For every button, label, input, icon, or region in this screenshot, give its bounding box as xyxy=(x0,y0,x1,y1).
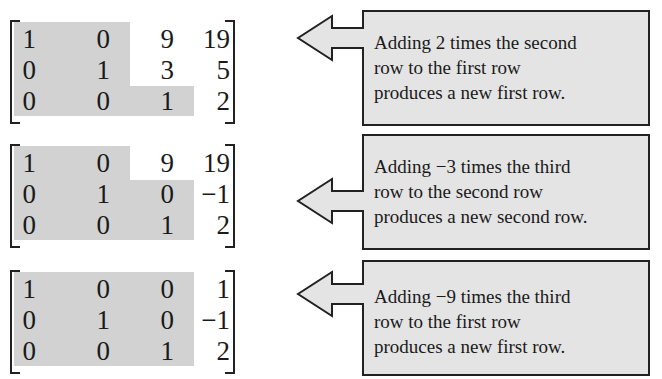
note-line: row to the first row xyxy=(374,55,636,80)
note-line: produces a new second row. xyxy=(374,204,636,229)
matrix-cell: 1 xyxy=(0,24,36,54)
matrix-cell: 2 xyxy=(190,86,230,116)
matrix-cell: 0 xyxy=(0,305,36,335)
note-line: Adding −9 times the third xyxy=(374,284,636,309)
matrix-cell: 0 xyxy=(134,179,174,209)
note-line: Adding −3 times the third xyxy=(374,154,636,179)
matrix-cell: 1 xyxy=(134,210,174,240)
matrix-cell: 1 xyxy=(190,274,230,304)
matrix-cell: 0 xyxy=(0,336,36,366)
matrix-cell: 9 xyxy=(134,148,174,178)
matrix-cell: 5 xyxy=(190,55,230,85)
step-2: 1 0 9 19 0 1 0 −1 0 0 1 2 Adding −3 time… xyxy=(0,128,662,254)
matrix-cell: 2 xyxy=(190,336,230,366)
matrix-cell: 19 xyxy=(190,24,230,54)
matrix-cell: 0 xyxy=(134,305,174,335)
matrix-cell: 0 xyxy=(0,55,36,85)
callout-text: Adding −9 times the third row to the fir… xyxy=(374,284,636,359)
matrix-cell: 0 xyxy=(70,86,110,116)
step-1: 1 0 9 19 0 1 3 5 0 0 1 2 Adding 2 times … xyxy=(0,4,662,130)
step-3: 1 0 0 1 0 1 0 −1 0 0 1 2 Adding −9 times… xyxy=(0,254,662,379)
matrix-cell: 0 xyxy=(134,274,174,304)
matrix-1: 1 0 9 19 0 1 3 5 0 0 1 2 xyxy=(10,20,235,120)
matrix-cell: 2 xyxy=(190,210,230,240)
callout-1: Adding 2 times the second row to the fir… xyxy=(296,10,652,128)
matrix-cell: −1 xyxy=(190,179,230,209)
matrix-3: 1 0 0 1 0 1 0 −1 0 0 1 2 xyxy=(10,270,235,370)
note-line: produces a new first row. xyxy=(374,80,636,105)
matrix-cell: 0 xyxy=(70,210,110,240)
matrix-2: 1 0 9 19 0 1 0 −1 0 0 1 2 xyxy=(10,144,235,244)
matrix-cell: 0 xyxy=(70,274,110,304)
matrix-cell: 1 xyxy=(0,148,36,178)
matrix-cell: 9 xyxy=(134,24,174,54)
callout-text: Adding 2 times the second row to the fir… xyxy=(374,30,636,105)
matrix-cell: 0 xyxy=(70,336,110,366)
matrix-cell: 1 xyxy=(0,274,36,304)
callout-text: Adding −3 times the third row to the sec… xyxy=(374,154,636,229)
matrix-cell: 19 xyxy=(190,148,230,178)
matrix-cell: 1 xyxy=(70,305,110,335)
callout-3: Adding −9 times the third row to the fir… xyxy=(296,260,652,378)
matrix-cell: −1 xyxy=(190,305,230,335)
matrix-cell: 3 xyxy=(134,55,174,85)
matrix-cell: 0 xyxy=(0,210,36,240)
matrix-cell: 1 xyxy=(70,55,110,85)
matrix-cell: 0 xyxy=(0,86,36,116)
callout-2: Adding −3 times the third row to the sec… xyxy=(296,134,652,252)
matrix-cell: 1 xyxy=(134,336,174,366)
matrix-cell: 0 xyxy=(70,24,110,54)
note-line: produces a new first row. xyxy=(374,334,636,359)
matrix-cell: 1 xyxy=(70,179,110,209)
note-line: row to the first row xyxy=(374,309,636,334)
matrix-cell: 1 xyxy=(134,86,174,116)
matrix-cell: 0 xyxy=(70,148,110,178)
matrix-cell: 0 xyxy=(0,179,36,209)
note-line: row to the second row xyxy=(374,179,636,204)
note-line: Adding 2 times the second xyxy=(374,30,636,55)
